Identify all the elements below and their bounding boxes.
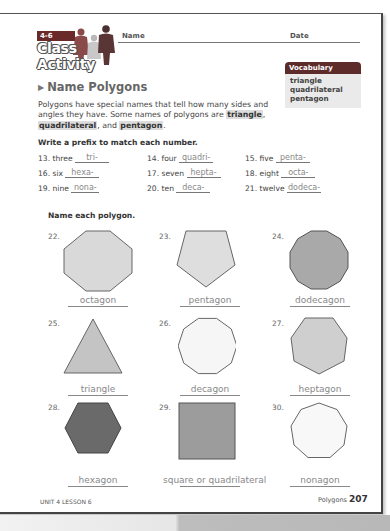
item-number: 25.: [48, 319, 60, 328]
item-number: 28.: [48, 403, 60, 412]
vocab-word: quadrilateral: [290, 85, 357, 94]
prefix-item: 21. twelve dodeca-: [245, 183, 321, 193]
term-triangle: triangle: [226, 110, 263, 119]
decagon-shape: [178, 317, 236, 375]
page-footer: Polygons 207: [318, 494, 368, 504]
prefix-item: 19. nine nona-: [38, 183, 99, 193]
prefix-answer[interactable]: octa-: [281, 168, 315, 178]
date-label: Date: [290, 32, 309, 40]
prefix-item: 13. three tri-: [38, 153, 109, 163]
octagon-shape: [62, 230, 134, 292]
polygon-answer[interactable]: pentagon: [180, 294, 240, 307]
name-field[interactable]: [118, 42, 294, 43]
page-shadow-strip: [0, 515, 390, 531]
triangle-shape: [63, 318, 123, 374]
polygon-answer[interactable]: octagon: [68, 294, 128, 307]
polygon-answer[interactable]: nonagon: [290, 474, 350, 487]
prefix-answer[interactable]: dodeca-: [287, 183, 321, 193]
polygon-answer[interactable]: square or quadrilateral: [180, 474, 240, 487]
prefix-answer[interactable]: hexa-: [65, 168, 99, 178]
prefix-item: 15. five penta-: [245, 153, 310, 163]
prefix-item: 16. six hexa-: [38, 168, 99, 178]
term-pentagon: pentagon: [119, 121, 163, 130]
prefix-item: 18. eight octa-: [245, 168, 315, 178]
pentagon-shape: [176, 230, 236, 288]
prefix-item: 20. ten deca-: [147, 183, 210, 193]
topic-label: Polygons: [318, 496, 347, 504]
page-number: 207: [349, 494, 368, 504]
prefix-answer[interactable]: penta-: [276, 153, 310, 163]
vocabulary-box: Vocabulary triangle quadrilateral pentag…: [285, 62, 361, 108]
prefix-instruction: Write a prefix to match each number.: [38, 138, 198, 147]
polygon-answer[interactable]: dodecagon: [290, 294, 350, 307]
name-label: Name: [122, 32, 145, 40]
date-field[interactable]: [290, 42, 360, 43]
item-number: 22.: [48, 232, 60, 241]
item-number: 23.: [159, 232, 171, 241]
class-activity-logo: 4-6 Class Activity: [37, 25, 127, 67]
vocabulary-title: Vocabulary: [285, 62, 361, 74]
section-title: ▶Name Polygons: [38, 80, 147, 94]
item-number: 27.: [272, 319, 284, 328]
polygon-answer[interactable]: heptagon: [290, 383, 350, 396]
heptagon-shape: [290, 317, 348, 375]
term-quadrilateral: quadrilateral: [38, 121, 97, 130]
prefix-answer[interactable]: tri-: [75, 153, 109, 163]
nonagon-shape: [290, 402, 348, 460]
polygon-instruction: Name each polygon.: [48, 211, 135, 220]
prefix-item: 14. four quadri-: [147, 153, 213, 163]
intro-paragraph: Polygons have special names that tell ho…: [38, 100, 288, 131]
item-number: 29.: [159, 403, 171, 412]
square-shape: [178, 402, 236, 460]
polygon-answer[interactable]: decagon: [180, 383, 240, 396]
dodecagon-shape: [289, 230, 349, 290]
polygon-answer[interactable]: hexagon: [68, 474, 128, 487]
vocab-word: triangle: [290, 76, 357, 85]
vocab-word: pentagon: [290, 94, 357, 103]
polygon-answer[interactable]: triangle: [68, 383, 128, 396]
logo-title: Class Activity: [37, 40, 127, 72]
prefix-answer[interactable]: quadri-: [179, 153, 213, 163]
item-number: 26.: [159, 319, 171, 328]
prefix-item: 17. seven hepta-: [147, 168, 221, 178]
prefix-answer[interactable]: hepta-: [187, 168, 221, 178]
prefix-answer[interactable]: nona-: [71, 183, 99, 193]
item-number: 30.: [272, 403, 284, 412]
hexagon-shape: [64, 402, 122, 454]
triangle-bullet-icon: ▶: [38, 83, 44, 92]
item-number: 24.: [272, 232, 284, 241]
prefix-answer[interactable]: deca-: [176, 183, 210, 193]
unit-lesson-label: UNIT 4 LESSON 6: [40, 498, 92, 505]
